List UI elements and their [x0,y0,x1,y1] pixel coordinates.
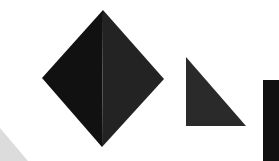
diamond-right-half [102,10,164,147]
rectangle-shape [263,80,279,161]
corner-wedge-shape [0,128,28,161]
shapes-scene [0,0,279,161]
diamond-shape [42,10,164,147]
diamond-left-half [42,10,103,147]
right-triangle-shape [186,57,246,126]
shapes-canvas [0,0,279,161]
